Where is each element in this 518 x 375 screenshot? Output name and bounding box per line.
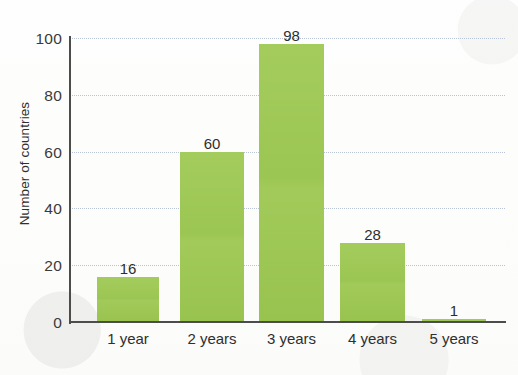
- bar-3-years[interactable]: [259, 44, 324, 322]
- y-tick-0: 0: [16, 315, 62, 331]
- bar-value-3-years: 98: [259, 28, 324, 43]
- x-tick-5-years: 5 years: [422, 331, 486, 346]
- bar-value-1-year: 16: [97, 261, 159, 276]
- bar-4-years[interactable]: [340, 243, 405, 323]
- bar-value-4-years: 28: [340, 227, 405, 242]
- y-tick-100: 100: [16, 31, 62, 47]
- y-axis-line: [69, 36, 71, 324]
- x-tick-1-year: 1 year: [97, 331, 159, 346]
- bar-value-5-years: 1: [422, 303, 486, 318]
- x-tick-4-years: 4 years: [340, 331, 405, 346]
- bar-chart-figure: 16 60 98 28 1 100 80 60 40 20 0 Number o…: [0, 0, 518, 375]
- x-tick-2-years: 2 years: [180, 331, 244, 346]
- y-axis-title: Number of countries: [17, 64, 32, 264]
- x-axis-line: [69, 321, 506, 323]
- plot-area: 16 60 98 28 1: [70, 38, 505, 322]
- bar-value-2-years: 60: [180, 136, 244, 151]
- bar-2-years[interactable]: [180, 152, 244, 322]
- bar-1-year[interactable]: [97, 277, 159, 322]
- x-tick-3-years: 3 years: [259, 331, 324, 346]
